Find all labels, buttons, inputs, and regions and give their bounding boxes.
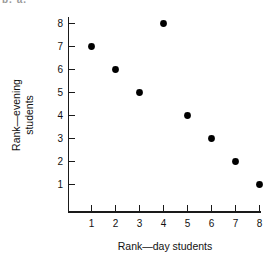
x-axis-ticks <box>92 205 260 212</box>
y-tick-label: 4 <box>57 110 63 121</box>
x-tick-label: 6 <box>209 218 215 229</box>
y-tick-label: 2 <box>57 156 63 167</box>
data-point <box>112 66 119 73</box>
scatter-plot: 8 7 6 5 4 3 2 1 1 2 3 4 5 6 <box>0 0 277 261</box>
x-tick-label: 2 <box>113 218 119 229</box>
data-point <box>136 89 143 96</box>
x-tick-label: 5 <box>185 218 191 229</box>
y-tick-label: 6 <box>57 64 63 75</box>
y-tick-label: 1 <box>57 179 63 190</box>
data-point <box>184 112 191 119</box>
x-tick-label: 1 <box>89 218 95 229</box>
data-point <box>160 20 167 27</box>
y-axis-title-line1: Rank—evening <box>10 79 22 151</box>
y-tick-label: 7 <box>57 41 63 52</box>
x-tick-label: 3 <box>137 218 143 229</box>
x-tick-label: 7 <box>233 218 239 229</box>
data-point <box>232 158 239 165</box>
y-axis-title: Rank—evening students <box>10 79 35 151</box>
y-tick-label: 8 <box>57 18 63 29</box>
x-tick-label: 8 <box>257 218 263 229</box>
y-axis-tick-labels: 8 7 6 5 4 3 2 1 <box>57 18 63 190</box>
x-axis-title: Rank—day students <box>118 240 213 252</box>
y-tick-label: 5 <box>57 87 63 98</box>
data-point <box>256 181 263 188</box>
figure-container: b. a. 8 7 6 5 4 3 2 1 <box>0 0 277 261</box>
data-point <box>208 135 215 142</box>
x-tick-label: 4 <box>161 218 167 229</box>
data-point <box>88 43 95 50</box>
y-tick-label: 3 <box>57 133 63 144</box>
y-axis-title-line2: students <box>23 95 35 135</box>
data-points <box>88 20 263 188</box>
x-axis-tick-labels: 1 2 3 4 5 6 7 8 <box>89 218 263 229</box>
